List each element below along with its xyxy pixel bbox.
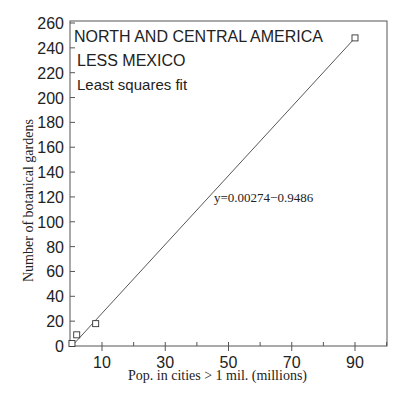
y-tick-label: 20	[46, 313, 64, 330]
x-tick-label: 90	[346, 354, 364, 371]
chart-subtitle: Least squares fit	[77, 76, 188, 93]
y-tick-label: 120	[37, 189, 64, 206]
y-axis: 020406080100120140160180200220240260	[37, 15, 75, 355]
data-point-marker	[69, 341, 75, 347]
y-tick-label: 0	[55, 338, 64, 355]
x-axis-label: Pop. in cities > 1 mil. (millions)	[128, 368, 307, 384]
y-tick-label: 160	[37, 139, 64, 156]
chart-title-line-1: NORTH AND CENTRAL AMERICA	[74, 28, 323, 45]
y-tick-label: 220	[37, 65, 64, 82]
fit-equation: y=0.00274−0.9486	[214, 190, 314, 205]
y-tick-label: 260	[37, 15, 64, 32]
y-tick-label: 240	[37, 40, 64, 57]
x-tick-label: 10	[93, 354, 111, 371]
plot-frame	[70, 21, 387, 346]
y-tick-label: 100	[37, 214, 64, 231]
y-tick-label: 180	[37, 114, 64, 131]
y-tick-label: 60	[46, 263, 64, 280]
data-point-marker	[93, 321, 99, 327]
y-tick-label: 80	[46, 239, 64, 256]
y-axis-label: Number of botanical gardens	[21, 119, 36, 282]
data-point-marker	[352, 35, 358, 41]
y-tick-label: 140	[37, 164, 64, 181]
chart-canvas: 020406080100120140160180200220240260 103…	[0, 0, 400, 403]
data-point-marker	[74, 332, 80, 338]
chart-title-line-2: LESS MEXICO	[77, 52, 185, 69]
y-tick-label: 40	[46, 288, 64, 305]
y-tick-label: 200	[37, 90, 64, 107]
